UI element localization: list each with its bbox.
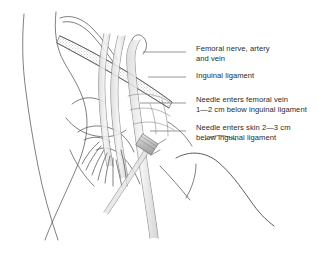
label-line: Femoral nerve, artery (196, 44, 270, 54)
label-line: below inguinal ligament (196, 133, 291, 143)
label-line: Needle enters femoral vein (196, 95, 307, 105)
label-line: Inguinal ligament (196, 71, 254, 81)
label-needle-enters-femoral-vein: Needle enters femoral vein 1—2 cm below … (196, 95, 307, 116)
label-line: and vein (196, 54, 270, 64)
label-line: Needle enters skin 2—3 cm (196, 123, 291, 133)
label-line: 1—2 cm below inguinal ligament (196, 105, 307, 115)
label-needle-enters-skin: Needle enters skin 2—3 cm below inguinal… (196, 123, 291, 144)
label-femoral-nerve-artery-vein: Femoral nerve, artery and vein (196, 44, 270, 65)
femoral-vein-anatomy-figure: Femoral nerve, artery and vein Inguinal … (0, 0, 321, 256)
label-layer: Femoral nerve, artery and vein Inguinal … (0, 0, 321, 256)
label-inguinal-ligament: Inguinal ligament (196, 71, 254, 81)
